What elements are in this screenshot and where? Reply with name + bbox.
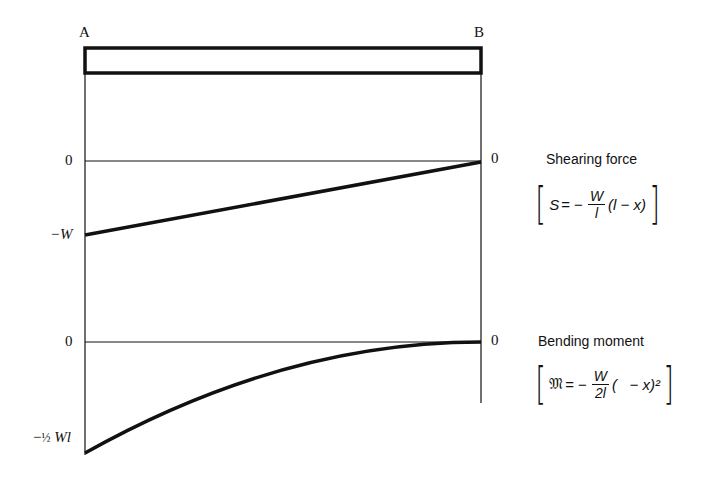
formula-rest: (l − x) — [608, 196, 646, 213]
shear-zero-right: 0 — [491, 150, 499, 167]
label-A: A — [79, 24, 90, 41]
formula-rest: ( − x)² — [612, 376, 660, 393]
moment-zero-left: 0 — [65, 333, 73, 350]
moment-min-label: −½ Wl — [33, 429, 71, 446]
fraction-denominator: 2l — [595, 385, 606, 401]
left-bracket: [ — [535, 182, 545, 226]
fraction-numerator: W — [592, 368, 609, 385]
formula-fraction: W 2l — [592, 368, 609, 401]
shear-title: Shearing force — [546, 151, 637, 167]
formula-fraction: W l — [588, 188, 605, 221]
right-bracket: ] — [649, 182, 659, 226]
shear-zero-left: 0 — [65, 152, 73, 169]
moment-formula: [ 𝔐 = − W 2l ( − x)² ] — [532, 362, 677, 406]
right-bracket: ] — [663, 362, 673, 406]
left-bracket: [ — [535, 362, 545, 406]
formula-lhs: 𝔐 — [549, 375, 563, 393]
formula-eq: = − — [565, 376, 587, 393]
min-label-suffix: Wl — [54, 429, 71, 445]
beam-rect — [85, 48, 481, 73]
shear-force-line — [85, 162, 481, 235]
fraction-numerator: W — [588, 188, 605, 205]
shear-min-label: −W — [50, 226, 73, 243]
label-B: B — [474, 24, 484, 41]
moment-title: Bending moment — [538, 333, 644, 349]
diagram-canvas — [0, 0, 726, 479]
shear-formula: [ S = − W l (l − x) ] — [532, 182, 663, 226]
formula-lhs: S — [549, 196, 559, 213]
fraction-denominator: l — [595, 205, 598, 221]
min-label-fraction: ½ — [41, 431, 50, 445]
moment-zero-right: 0 — [491, 332, 499, 349]
formula-eq: = − — [561, 196, 583, 213]
bending-moment-curve — [85, 342, 481, 453]
